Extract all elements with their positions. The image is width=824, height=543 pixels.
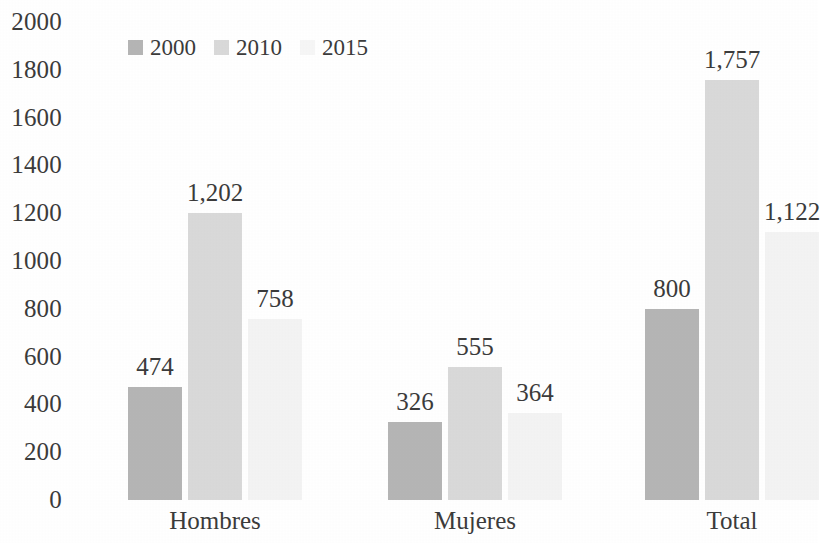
bar-value-label: 1,122 — [752, 199, 824, 224]
y-axis-tick-label: 1800 — [0, 57, 62, 82]
category-label-Total: Total — [615, 508, 824, 533]
y-axis-tick-label: 1400 — [0, 152, 62, 177]
bar-value-label: 555 — [435, 334, 515, 359]
bar-Mujeres-2000[interactable] — [388, 422, 442, 500]
bar-value-label: 800 — [632, 276, 712, 301]
y-axis-tick-label: 400 — [0, 391, 62, 416]
y-axis-tick-label: 0 — [0, 487, 62, 512]
bar-Hombres-2010[interactable] — [188, 213, 242, 500]
plot-area: 4741,202758Hombres326555364Mujeres8001,7… — [70, 0, 818, 543]
y-axis-tick-label: 1200 — [0, 200, 62, 225]
y-axis-tick-label: 1000 — [0, 248, 62, 273]
y-axis-tick-label: 800 — [0, 296, 62, 321]
bar-Total-2010[interactable] — [705, 80, 759, 500]
bar-value-label: 326 — [375, 389, 455, 414]
y-axis-tick-label: 2000 — [0, 9, 62, 34]
bar-value-label: 474 — [115, 354, 195, 379]
y-axis: 2000180016001400120010008006004002000 — [0, 0, 70, 543]
bar-Total-2000[interactable] — [645, 309, 699, 500]
bar-Hombres-2015[interactable] — [248, 319, 302, 500]
bar-Total-2015[interactable] — [765, 232, 819, 500]
bar-value-label: 1,757 — [692, 47, 772, 72]
y-axis-tick-label: 200 — [0, 439, 62, 464]
category-label-Hombres: Hombres — [98, 508, 332, 533]
y-axis-tick-label: 1600 — [0, 105, 62, 130]
category-label-Mujeres: Mujeres — [358, 508, 592, 533]
bar-value-label: 364 — [495, 380, 575, 405]
bar-Hombres-2000[interactable] — [128, 387, 182, 500]
bar-Mujeres-2015[interactable] — [508, 413, 562, 500]
y-axis-tick-label: 600 — [0, 344, 62, 369]
bar-Mujeres-2010[interactable] — [448, 367, 502, 500]
bar-value-label: 1,202 — [175, 180, 255, 205]
bar-value-label: 758 — [235, 286, 315, 311]
